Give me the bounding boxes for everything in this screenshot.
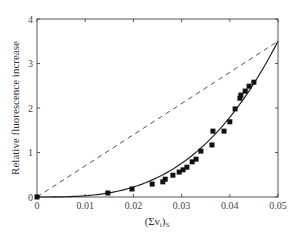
x-tick-label: 0.04 bbox=[221, 200, 239, 211]
data-point-square bbox=[243, 89, 248, 94]
x-tick-label: 0.05 bbox=[269, 200, 287, 211]
x-tick-label: 0.03 bbox=[173, 200, 191, 211]
data-point-square bbox=[150, 182, 155, 187]
plot-border bbox=[37, 19, 278, 197]
y-tick-labels: 01234 bbox=[28, 14, 33, 203]
data-point-square bbox=[209, 142, 214, 147]
x-tick-label: 0.02 bbox=[125, 200, 143, 211]
data-point-square bbox=[184, 165, 189, 170]
data-point-square bbox=[198, 149, 203, 154]
data-point-square bbox=[35, 195, 40, 200]
series-lines bbox=[37, 41, 278, 197]
y-tick-label: 0 bbox=[28, 192, 33, 203]
data-point-square bbox=[170, 173, 175, 178]
x-axis-title-sub-s: S bbox=[165, 221, 169, 229]
data-point-square bbox=[233, 106, 238, 111]
y-tick-label: 3 bbox=[28, 58, 33, 69]
data-point-square bbox=[129, 186, 134, 191]
y-tick-label: 4 bbox=[28, 14, 33, 25]
data-point-square bbox=[238, 93, 243, 98]
plot-frame bbox=[37, 19, 278, 197]
x-tick-label: 0 bbox=[35, 200, 40, 211]
x-axis-title-main: (Σν bbox=[145, 215, 160, 228]
chart: 00.010.020.030.040.05 01234 (Σνi)S Relat… bbox=[0, 0, 301, 238]
x-tick-label: 0.01 bbox=[76, 200, 94, 211]
dashed-reference-line bbox=[37, 41, 278, 197]
data-point-square bbox=[194, 157, 199, 162]
x-tick-labels: 00.010.020.030.040.05 bbox=[35, 200, 287, 211]
x-axis-title: (Σνi)S bbox=[145, 215, 170, 229]
data-point-square bbox=[105, 190, 110, 195]
data-points bbox=[35, 80, 257, 200]
y-axis-title: Relative fluorescence increase bbox=[9, 41, 21, 175]
axis-ticks bbox=[37, 19, 278, 197]
data-point-square bbox=[227, 119, 232, 124]
y-tick-label: 2 bbox=[28, 103, 33, 114]
y-tick-label: 1 bbox=[28, 147, 33, 158]
data-point-square bbox=[247, 84, 252, 89]
data-point-square bbox=[163, 177, 168, 182]
data-point-square bbox=[222, 129, 227, 134]
data-point-square bbox=[251, 80, 256, 85]
data-point-square bbox=[210, 129, 215, 134]
